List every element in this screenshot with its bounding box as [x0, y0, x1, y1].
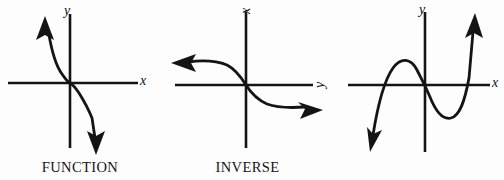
curve-arrowhead-left — [171, 54, 196, 72]
function-curve — [49, 35, 95, 138]
y-axis-label: y — [419, 3, 425, 17]
horizontal-axis-label: y — [313, 78, 327, 92]
function-graph-svg — [0, 0, 160, 180]
cubic-curve — [373, 32, 473, 135]
graph-panel-function: x y FUNCTION — [0, 0, 160, 180]
y-axis-label: y — [64, 4, 70, 18]
figure-canvas: x y FUNCTION x y INVERSE — [0, 0, 504, 180]
graph-panel-cubic: x y — [335, 0, 504, 180]
inverse-graph-svg — [165, 0, 330, 180]
curve-arrowhead-right — [298, 102, 323, 119]
curve-arrowhead-up — [36, 16, 54, 40]
curve-arrowhead-down — [87, 131, 105, 155]
vertical-axis-label: x — [239, 4, 253, 18]
panel-caption-inverse: INVERSE — [165, 159, 330, 176]
panel-caption-function: FUNCTION — [0, 159, 160, 176]
cubic-graph-svg — [335, 0, 504, 180]
graph-panel-inverse: x y INVERSE — [165, 0, 330, 180]
x-axis-label: x — [492, 76, 498, 90]
x-axis-label: x — [140, 74, 146, 88]
